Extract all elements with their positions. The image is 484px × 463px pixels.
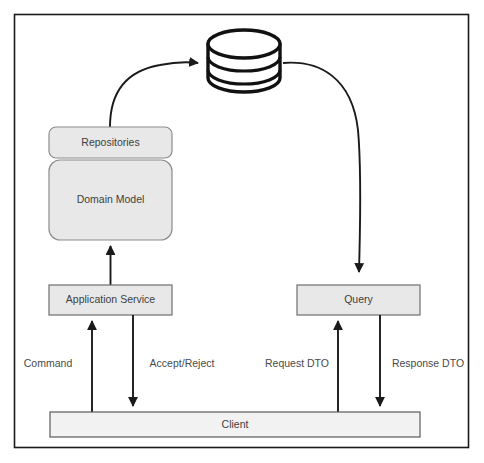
query-label: Query [344,293,373,305]
client-label: Client [222,418,249,430]
cqrs-architecture-diagram: Repositories Domain Model Application Se… [0,0,484,463]
node-application-service[interactable]: Application Service [49,285,172,315]
application-service-label: Application Service [66,293,155,305]
database-cylinder-icon [208,30,280,92]
edge-label-command: Command [24,357,73,369]
edge-label-request-dto: Request DTO [265,357,329,369]
diagram-canvas: Repositories Domain Model Application Se… [0,0,484,463]
edge-label-accept-reject: Accept/Reject [150,357,215,369]
node-repositories[interactable]: Repositories [49,127,172,158]
node-query[interactable]: Query [297,285,420,315]
node-domain-model[interactable]: Domain Model [49,160,172,240]
node-client[interactable]: Client [50,412,420,437]
repositories-label: Repositories [81,136,139,148]
edge-label-response-dto: Response DTO [392,357,464,369]
domain-model-label: Domain Model [77,193,145,205]
